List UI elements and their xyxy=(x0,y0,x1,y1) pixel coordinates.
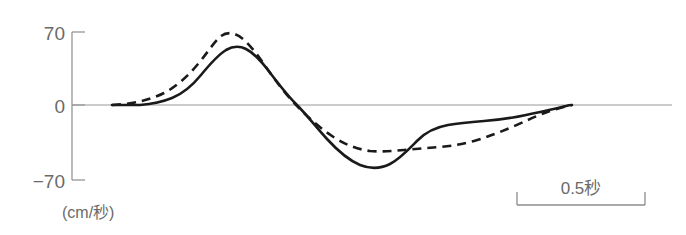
y-axis-unit-label: (cm/秒) xyxy=(62,204,114,221)
y-axis-group xyxy=(72,32,85,180)
solid-trace-path xyxy=(112,47,572,168)
scale-bar-label: 0.5秒 xyxy=(561,179,602,198)
scale-bar-group: 0.5秒 xyxy=(517,179,645,205)
chart-canvas: 70 0 −70 (cm/秒) 0.5秒 xyxy=(0,0,686,235)
y-tick-label-minus-70: −70 xyxy=(33,171,65,192)
y-tick-label-0: 0 xyxy=(54,96,65,117)
y-tick-label-70: 70 xyxy=(44,23,65,44)
velocity-trace-figure: 70 0 −70 (cm/秒) 0.5秒 xyxy=(0,0,686,235)
